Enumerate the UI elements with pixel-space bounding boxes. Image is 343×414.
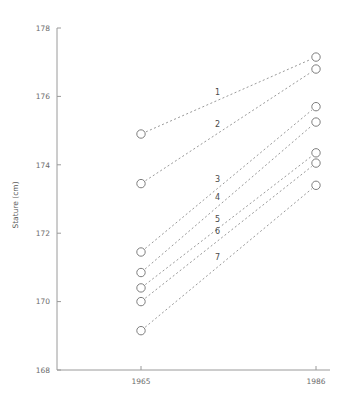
series-label-1: 1 — [215, 88, 220, 97]
data-point-6-1965 — [137, 297, 145, 305]
y-axis-title: Stature (cm) — [11, 181, 20, 228]
data-point-3-1986 — [312, 102, 320, 110]
data-point-7-1965 — [137, 326, 145, 334]
series-label-3: 3 — [215, 175, 220, 184]
chart-background — [0, 0, 343, 414]
chart-canvas: 178176174172170168 19651986 1234567 Stat… — [0, 0, 343, 414]
series-label-2: 2 — [215, 120, 220, 129]
data-point-4-1986 — [312, 118, 320, 126]
y-tick-label-176: 176 — [36, 92, 51, 101]
data-point-5-1986 — [312, 149, 320, 157]
x-tick-label-1965: 1965 — [131, 377, 150, 386]
y-tick-label-172: 172 — [36, 229, 51, 238]
series-label-5: 5 — [215, 215, 220, 224]
y-tick-label-174: 174 — [36, 161, 51, 170]
data-point-1-1965 — [137, 130, 145, 138]
data-point-2-1965 — [137, 179, 145, 187]
data-point-2-1986 — [312, 65, 320, 73]
data-point-6-1986 — [312, 159, 320, 167]
data-point-1-1986 — [312, 53, 320, 61]
y-tick-label-168: 168 — [36, 366, 51, 375]
data-point-7-1986 — [312, 181, 320, 189]
series-label-4: 4 — [215, 193, 220, 202]
data-point-4-1965 — [137, 268, 145, 276]
series-label-6: 6 — [215, 227, 220, 236]
y-tick-label-178: 178 — [36, 24, 51, 33]
series-label-7: 7 — [215, 253, 220, 262]
data-point-5-1965 — [137, 284, 145, 292]
slopegraph-chart: 178176174172170168 19651986 1234567 Stat… — [0, 0, 343, 414]
x-tick-label-1986: 1986 — [306, 377, 325, 386]
data-point-3-1965 — [137, 248, 145, 256]
y-tick-label-170: 170 — [36, 297, 51, 306]
